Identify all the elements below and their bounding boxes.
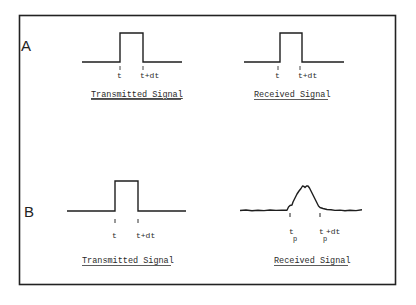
tick-label-t: t (275, 71, 280, 80)
tick-label-tp: t p (289, 227, 297, 243)
caption-transmitted-signal: Transmitted Signal (82, 256, 174, 266)
caption-received-signal: Received Signal (274, 256, 351, 266)
tick-label-t-plus-dt: t+dt (298, 71, 317, 80)
tick-label-t-plus-dt: t+dt (136, 231, 155, 240)
tick-label-tp-dt-suffix: +dt (326, 227, 340, 236)
panel-label-a: A (21, 37, 31, 54)
panel-a-transmitted-signal: t t+dt Transmitted Signal (82, 33, 183, 100)
panel-a-received-signal: t t+dt Received Signal (244, 33, 344, 100)
tick-label-t: t (112, 231, 117, 240)
tick-label-tp-subscript: p (293, 235, 297, 243)
caption-received-signal: Received Signal (254, 90, 331, 100)
tick-label-t: t (117, 71, 122, 80)
transmitted-pulse-waveform (82, 33, 182, 62)
tick-label-tp-plus-dt: t p +dt (319, 227, 340, 243)
panel-b: B t t+dt Transmitted Signal t p t p +dt (24, 181, 362, 266)
received-distorted-waveform (240, 186, 362, 211)
transmitted-pulse-waveform (67, 181, 186, 211)
received-pulse-waveform (244, 33, 344, 62)
caption-transmitted-signal: Transmitted Signal (91, 90, 183, 100)
panel-b-received-signal: t p t p +dt Received Signal (240, 186, 362, 266)
tick-label-t-plus-dt: t+dt (140, 71, 159, 80)
panel-b-transmitted-signal: t t+dt Transmitted Signal (67, 181, 186, 266)
signal-comparison-diagram: A t t+dt Transmitted Signal t t+dt Recei… (0, 0, 416, 305)
figure-border (20, 16, 396, 285)
panel-label-b: B (24, 203, 34, 220)
panel-a: A t t+dt Transmitted Signal t t+dt Recei… (21, 33, 344, 100)
tick-label-tp-dt-subscript: p (323, 235, 327, 243)
